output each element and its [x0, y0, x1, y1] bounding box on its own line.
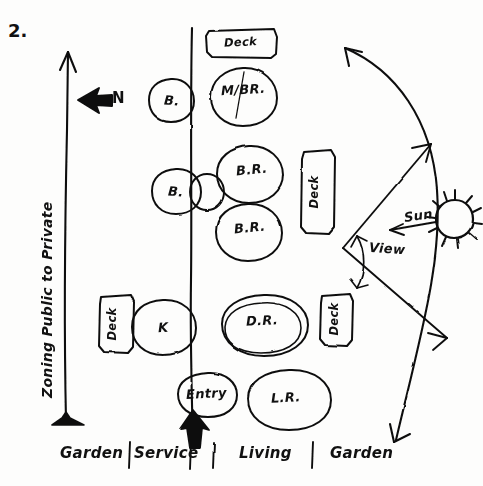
entry-arrow	[180, 410, 209, 448]
zoning-axis-label: Zoning Public to Private	[39, 218, 55, 398]
sun-direction-arrow	[390, 222, 436, 235]
bubble-diagram-canvas	[0, 0, 483, 486]
footer-zone-service: Service	[134, 444, 198, 462]
label-deck-right-lower: Deck	[327, 302, 341, 335]
label-living: L.R.	[271, 389, 301, 406]
north-arrow	[78, 88, 112, 113]
label-master-bed: M/BR.	[221, 81, 266, 98]
north-label: N	[112, 89, 125, 107]
sketch-page: 2. N Zoning Public to Private Deck M/BR.…	[0, 0, 483, 486]
label-kitchen: K	[158, 320, 169, 336]
footer-zone-living: Living	[239, 444, 292, 462]
label-entry: Entry	[186, 385, 227, 402]
sun-symbol	[427, 190, 482, 248]
label-deck-left: Deck	[105, 307, 119, 340]
label-bath-top: B.	[163, 92, 179, 108]
label-dining: D.R.	[246, 312, 279, 329]
sheet-number: 2.	[8, 20, 27, 41]
footer-zone-garden-right: Garden	[330, 444, 393, 462]
zoning-axis	[52, 52, 84, 425]
label-view: View	[369, 240, 406, 257]
label-deck-top: Deck	[224, 34, 258, 50]
bubble-closet-divider	[190, 174, 224, 210]
footer-zone-garden-left: Garden	[60, 444, 123, 462]
label-deck-right-upper: Deck	[307, 175, 321, 208]
label-bath-mid: B.	[167, 183, 183, 199]
